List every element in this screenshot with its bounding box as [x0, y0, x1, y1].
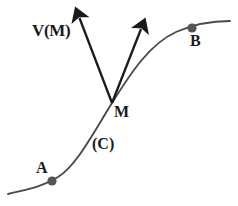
- figure-canvas: V(M) M B A (C): [0, 0, 238, 206]
- velocity-vector-arrow: [80, 18, 113, 103]
- velocity-vector-label: V(M): [32, 22, 70, 39]
- point-m-label: M: [114, 104, 129, 120]
- point-a-label: A: [36, 160, 48, 176]
- point-a-marker: [47, 176, 56, 185]
- point-b-label: B: [190, 33, 201, 49]
- curve-c-label: (C): [92, 136, 114, 152]
